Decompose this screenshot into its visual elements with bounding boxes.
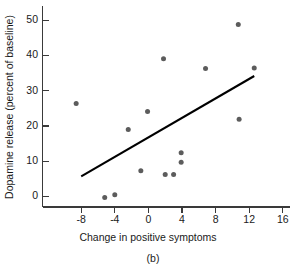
data-point	[237, 117, 242, 122]
regression-trend-line	[81, 76, 254, 176]
x-tick-label-12: 12	[243, 213, 255, 225]
x-tick-label-8: 8	[213, 213, 219, 225]
x-axis-title: Change in positive symptoms	[79, 231, 216, 243]
y-tick-label-50: 50	[26, 13, 38, 25]
data-point	[252, 65, 257, 70]
data-point	[163, 172, 168, 177]
y-tick-label-10: 10	[26, 154, 38, 166]
data-point	[161, 56, 166, 61]
y-axis-title: Dopamine release (percent of baseline)	[3, 15, 15, 199]
data-point	[179, 160, 184, 165]
x-tick-label-minus8: -8	[77, 213, 86, 225]
y-tick-label-40: 40	[26, 48, 38, 60]
data-point	[126, 127, 131, 132]
plot-canvas: 50 40 30 20 10 0 -8 -4 0 4 8 12 16	[0, 0, 306, 268]
x-tick-label-0: 0	[145, 213, 151, 225]
x-tick-label-16: 16	[277, 213, 289, 225]
data-point	[145, 109, 150, 114]
y-axis-ticks: 50 40 30 20 10 0	[26, 13, 48, 201]
data-point	[112, 192, 117, 197]
x-tick-label-minus4: -4	[110, 213, 119, 225]
data-point	[102, 195, 107, 200]
data-point	[179, 150, 184, 155]
x-axis-ticks: -8 -4 0 4 8 12 16	[77, 207, 289, 225]
data-point	[138, 168, 143, 173]
figure-caption: (b)	[147, 252, 160, 264]
data-point	[74, 101, 79, 106]
y-tick-label-30: 30	[26, 84, 38, 96]
scatter-plot-figure: 50 40 30 20 10 0 -8 -4 0 4 8 12 16	[0, 0, 306, 268]
data-point	[236, 22, 241, 27]
y-tick-label-0: 0	[32, 189, 38, 201]
data-point	[171, 172, 176, 177]
data-point	[203, 66, 208, 71]
data-points-layer	[74, 22, 257, 200]
y-tick-label-20: 20	[26, 119, 38, 131]
x-tick-label-4: 4	[179, 213, 185, 225]
